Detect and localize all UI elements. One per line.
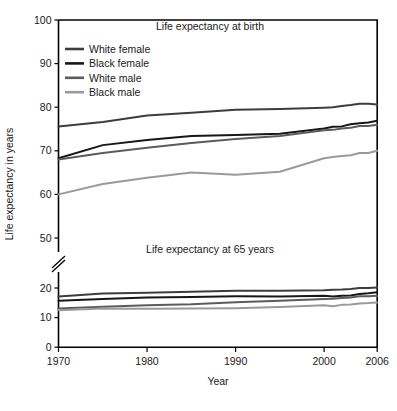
y-tick-label: 90 <box>40 57 52 69</box>
x-tick-label: 1970 <box>47 355 71 367</box>
legend-item: Black male <box>65 86 141 98</box>
legend-item: White male <box>65 72 142 84</box>
y-tick-label: 80 <box>40 101 52 113</box>
panel-title-at-65: Life expectancy at 65 years <box>146 243 274 255</box>
y-tick-label: 20 <box>40 282 52 294</box>
y-tick-label: 0 <box>46 341 52 353</box>
x-axis-ticks: 19701980199020002006 <box>47 347 389 367</box>
series-line-white-male-birth <box>59 125 378 160</box>
legend-label: Black male <box>89 86 141 98</box>
legend: White femaleBlack femaleWhite maleBlack … <box>65 43 150 98</box>
panel-title-birth: Life expectancy at birth <box>156 20 264 32</box>
y-tick-label: 10 <box>40 311 52 323</box>
y-tick-label: 60 <box>40 188 52 200</box>
legend-label: White male <box>89 72 142 84</box>
axis-break-marks <box>52 252 65 272</box>
legend-item: White female <box>65 43 150 55</box>
series-line-black-male-birth <box>59 151 378 195</box>
legend-item: Black female <box>65 57 149 69</box>
x-tick-label: 1990 <box>224 355 248 367</box>
chart-canvas: 506070809010001020 19701980199020002006 … <box>0 0 397 411</box>
y-axis-title: Life expectancy in years <box>3 128 15 241</box>
life-expectancy-chart: 506070809010001020 19701980199020002006 … <box>0 0 397 411</box>
legend-label: White female <box>89 43 150 55</box>
x-tick-label: 2006 <box>366 355 390 367</box>
y-tick-label: 70 <box>40 144 52 156</box>
x-tick-label: 2000 <box>312 355 336 367</box>
y-axis-ticks: 506070809010001020 <box>34 14 59 353</box>
data-series-layer <box>59 104 378 310</box>
y-tick-label: 50 <box>40 232 52 244</box>
legend-label: Black female <box>89 57 149 69</box>
x-tick-label: 1980 <box>135 355 159 367</box>
series-line-white-female-at_65 <box>59 287 378 296</box>
series-line-white-female-birth <box>59 104 378 127</box>
x-axis-title: Year <box>207 375 229 387</box>
y-tick-label: 100 <box>34 14 52 26</box>
